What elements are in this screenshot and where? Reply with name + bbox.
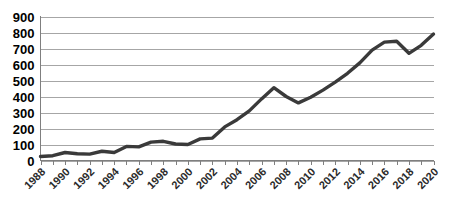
line-chart: 0100200300400500600700800900 19881990199… (0, 0, 449, 207)
y-tick-label: 400 (13, 90, 35, 105)
data-line-series-1 (41, 34, 434, 156)
x-tick-label: 2018 (390, 165, 416, 191)
x-tick-label: 2010 (292, 165, 318, 191)
data-series (41, 34, 434, 156)
x-tick-label: 2020 (415, 165, 441, 191)
y-tick-label: 800 (13, 26, 35, 41)
y-tick-label: 200 (13, 122, 35, 137)
x-tick-label: 2000 (169, 165, 195, 191)
x-tick-label: 1994 (95, 165, 121, 191)
x-tick-label: 2004 (218, 165, 244, 191)
y-tick-label: 0 (27, 154, 34, 169)
x-tick-label: 1996 (120, 165, 146, 191)
y-tick-label: 300 (13, 106, 35, 121)
y-tick-label: 500 (13, 74, 35, 89)
x-tick-label: 2008 (267, 165, 293, 191)
x-tick-label: 1998 (144, 165, 170, 191)
x-tick-label: 1988 (22, 165, 48, 191)
x-tick-label: 1992 (71, 165, 97, 191)
chart-canvas: 0100200300400500600700800900 19881990199… (0, 0, 449, 207)
gridlines (41, 18, 434, 162)
y-tick-label: 900 (13, 10, 35, 25)
x-axis-tick-labels: 1988199019921994199619982000200220042006… (22, 165, 441, 191)
x-tick-label: 2016 (365, 165, 391, 191)
y-tick-label: 600 (13, 58, 35, 73)
x-tick-label: 2002 (194, 165, 220, 191)
x-tick-label: 1990 (46, 165, 72, 191)
y-tick-label: 100 (13, 138, 35, 153)
x-tick-label: 2014 (341, 165, 367, 191)
y-axis-tick-labels: 0100200300400500600700800900 (13, 10, 35, 169)
y-tick-label: 700 (13, 42, 35, 57)
axis-lines (41, 16, 434, 161)
x-tick-label: 2012 (316, 165, 342, 191)
x-tick-label: 2006 (243, 165, 269, 191)
